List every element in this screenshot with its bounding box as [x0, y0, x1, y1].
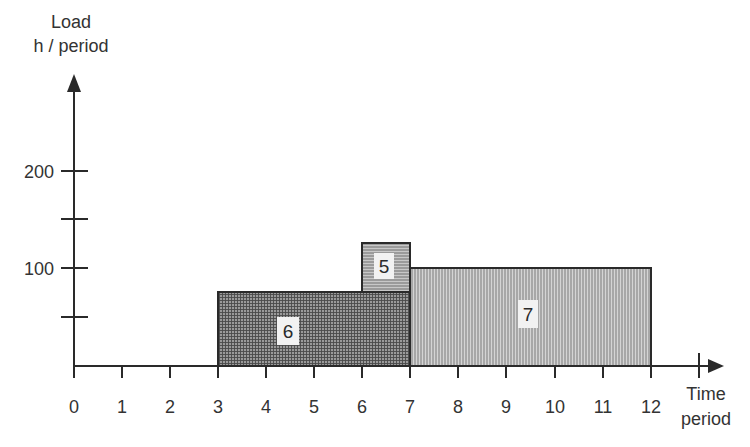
- load-chart: Load h / period 6 5 7 200 100: [0, 0, 750, 447]
- x-tick-label: 12: [641, 397, 661, 417]
- x-axis-title-line1: Time: [686, 384, 725, 404]
- y-axis-title-line1: Load: [51, 12, 91, 32]
- x-tick-label: 10: [545, 397, 565, 417]
- x-tick-labels: 0 1 2 3 4 5 6 7 8 9 10 11 12: [69, 397, 661, 417]
- y-axis: [61, 90, 88, 378]
- x-tick-label: 4: [261, 397, 271, 417]
- block-7-label: 7: [523, 304, 534, 325]
- block-7: 7: [410, 268, 651, 366]
- block-6: 6: [218, 292, 410, 366]
- x-tick-label: 7: [405, 397, 415, 417]
- y-axis-title-line2: h / period: [33, 36, 108, 56]
- x-tick-label: 2: [165, 397, 175, 417]
- block-5: 5: [362, 243, 410, 292]
- x-tick-label: 1: [117, 397, 127, 417]
- x-tick-label: 11: [594, 397, 613, 417]
- y-axis-arrow-icon: [67, 74, 81, 92]
- x-tick-label: 6: [357, 397, 367, 417]
- x-tick-label: 0: [69, 397, 79, 417]
- x-tick-label: 9: [501, 397, 511, 417]
- y-tick-label-200: 200: [24, 162, 54, 182]
- block-6-label: 6: [283, 321, 294, 342]
- x-tick-label: 8: [453, 397, 463, 417]
- x-tick-label: 5: [309, 397, 319, 417]
- x-axis-arrow-icon: [708, 359, 724, 373]
- x-axis-title-line2: period: [681, 409, 731, 429]
- x-tick-label: 3: [213, 397, 223, 417]
- y-tick-label-100: 100: [24, 259, 54, 279]
- block-5-label: 5: [379, 256, 390, 277]
